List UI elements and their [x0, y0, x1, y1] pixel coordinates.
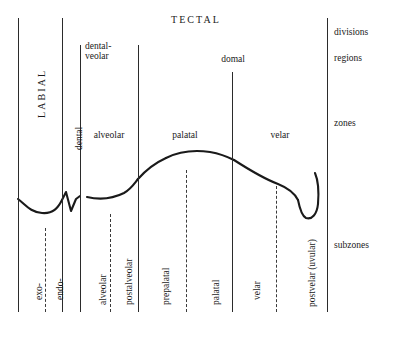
- legend-regions: regions: [334, 53, 362, 63]
- boundary-alveolar-right: [138, 45, 139, 312]
- subzone-prepalatal: prepalatal: [161, 268, 171, 305]
- subzone-velar: velar: [252, 281, 262, 300]
- boundary-labial-right: [62, 18, 63, 312]
- subzone-divider-velar-postvelar: [276, 186, 277, 312]
- subzone-postalveolar: postalveolar: [124, 259, 134, 305]
- subzone-divider-alveolar-post: [110, 214, 111, 312]
- zone-alveolar: alveolar: [94, 130, 125, 140]
- zone-palatal: palatal: [172, 130, 197, 140]
- zone-dental: dental: [74, 127, 84, 150]
- division-labial: LABIAL: [36, 69, 47, 118]
- zone-velar: velar: [271, 130, 290, 140]
- region-dental-alveolar-line2: veolar: [85, 51, 111, 61]
- subzone-divider-exo-endo: [45, 228, 46, 312]
- articulation-chart: LABIAL TECTAL dental- veolar domal denta…: [0, 0, 394, 338]
- subzone-endo: endo-: [55, 278, 65, 300]
- boundary-palatal-right: [232, 72, 233, 312]
- boundary-left-outer: [18, 18, 19, 312]
- legend-subzones: subzones: [334, 240, 369, 250]
- subzone-postvelar-uvular: postvelar (uvular): [307, 239, 317, 307]
- legend-zones: zones: [334, 118, 356, 128]
- boundary-right-outer: [327, 18, 328, 312]
- subzone-alveolar: alveolar: [98, 274, 108, 305]
- subzone-exo: exo-: [34, 283, 44, 300]
- subzone-divider-prepalatal-palatal: [186, 170, 187, 312]
- legend-divisions: divisions: [334, 27, 368, 37]
- subzone-palatal: palatal: [211, 280, 221, 305]
- region-dental-alveolar: dental- veolar: [85, 41, 111, 62]
- boundary-dental-right: [80, 45, 81, 312]
- division-tectal: TECTAL: [171, 14, 221, 25]
- region-domal: domal: [221, 54, 245, 64]
- region-dental-alveolar-line1: dental-: [85, 41, 111, 51]
